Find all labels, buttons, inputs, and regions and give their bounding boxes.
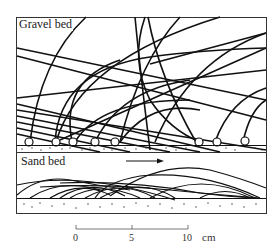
- gravel-bed-sediment-dots: [21, 147, 262, 150]
- scale-tick-5: 5: [129, 232, 134, 243]
- sand-bed-sediment-dots: [23, 202, 256, 208]
- flow-direction-arrow: [126, 159, 164, 164]
- sand-saltation-arcs: [17, 168, 266, 200]
- gravel-bed-label: Gravel bed: [19, 18, 73, 31]
- gravel-particles: [25, 137, 249, 146]
- scale-tick-10: 10: [182, 232, 192, 243]
- diagram-canvas: [0, 0, 278, 251]
- sand-bed-label: Sand bed: [21, 155, 65, 168]
- scale-unit: cm: [202, 231, 215, 243]
- scale-tick-0: 0: [73, 232, 78, 243]
- scale-bar: [76, 225, 188, 229]
